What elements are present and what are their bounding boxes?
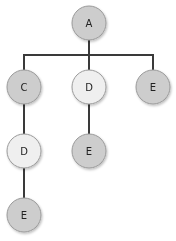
node-label: D [20, 146, 28, 157]
tree-node-c: C [7, 70, 41, 104]
tree-node-a: A [72, 6, 106, 40]
tree-node-e-leaf: E [7, 198, 41, 232]
node-label: C [21, 82, 28, 93]
tree-node-d: D [72, 70, 106, 104]
node-label: E [21, 210, 27, 221]
node-label: E [86, 146, 92, 157]
tree-node-d-child-of-c: D [7, 134, 41, 168]
node-label: D [85, 82, 93, 93]
edges [23, 40, 154, 198]
node-label: A [86, 18, 93, 29]
tree-node-e-child-of-d: E [72, 134, 106, 168]
tree-diagram: A C D E D E E [0, 0, 176, 241]
node-label: E [150, 82, 156, 93]
tree-node-e: E [136, 70, 170, 104]
